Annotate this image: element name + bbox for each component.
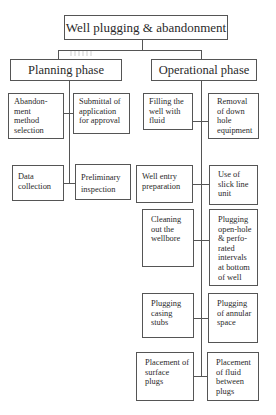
planning-spine [69, 80, 70, 183]
operational-branch-5 [194, 376, 207, 377]
root-node-title: Well plugging & abandonment [64, 15, 228, 40]
operational-spine [201, 81, 202, 376]
node-use-of-slick-line-unit: Use of slick line unit [209, 165, 258, 205]
node-well-entry-preparation: Well entry preparation [136, 165, 193, 203]
node-data-collection: Data collection [12, 165, 64, 201]
node-placement-surface-plugs: Placement of surface plugs [136, 352, 194, 401]
planning-branch-2 [64, 183, 75, 184]
scan-artifact [70, 51, 94, 56]
operational-branch-1 [193, 121, 208, 122]
node-submittal-of-application: Submittal of application for approval [73, 93, 130, 134]
planning-branch-1 [64, 113, 73, 114]
connector-to-planning [58, 50, 59, 59]
node-plugging-annular-space: Plugging of annular space [208, 293, 258, 343]
node-filling-well-with-fluid: Filling the well with fluid [143, 93, 193, 130]
node-placement-fluid-between-plugs: Placement of fluid between plugs [207, 352, 259, 401]
connector-to-operational [201, 50, 202, 59]
operational-branch-2 [193, 184, 209, 185]
node-plugging-open-hole: Plugging open-hole & perfo- rated interv… [209, 209, 258, 286]
node-plugging-casing-stubs: Plugging casing stubs [142, 293, 194, 338]
operational-branch-3 [194, 240, 209, 241]
node-preliminary-inspection: Preliminary inspection [75, 164, 131, 200]
connector-title-down [142, 40, 143, 50]
node-cleaning-out-wellbore: Cleaning out the wellbore [142, 209, 194, 267]
operational-phase-node: Operational phase [151, 59, 257, 81]
node-removal-of-downhole-equipment: Removal of down hole equipment [208, 93, 259, 139]
operational-branch-4 [194, 318, 208, 319]
planning-phase-node: Planning phase [10, 59, 122, 81]
node-abandonment-method-selection: Abandon- ment method selection [8, 93, 64, 139]
